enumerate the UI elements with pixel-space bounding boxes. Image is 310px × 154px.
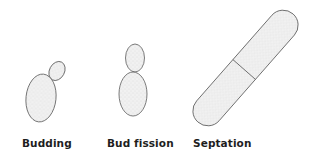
septation-label: Septation [193, 137, 252, 149]
bud-fission-label: Bud fission [107, 137, 174, 149]
diagram-canvas [0, 0, 310, 154]
septation-rod-cell [187, 4, 305, 132]
budding-illustration [24, 59, 69, 124]
septation-illustration [187, 4, 305, 132]
bud-fission-illustration [119, 44, 147, 116]
bud-fission-lower-cell [119, 72, 147, 116]
cell-division-diagram: Budding Bud fission Septation [0, 0, 310, 154]
bud-fission-upper-cell [126, 44, 145, 72]
budding-label: Budding [22, 137, 72, 149]
